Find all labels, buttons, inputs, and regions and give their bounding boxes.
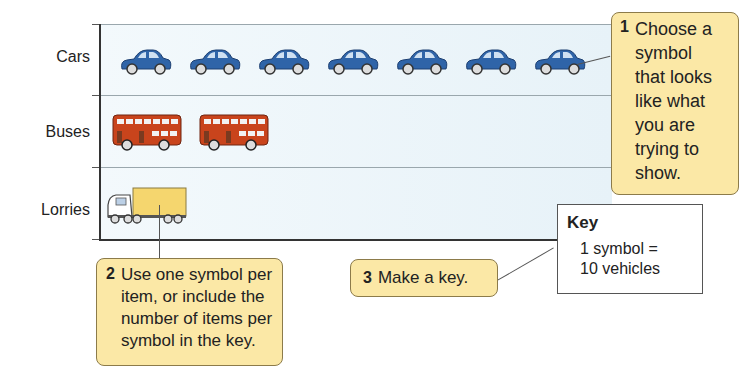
- gridline: [100, 24, 612, 25]
- gridline: [100, 95, 612, 96]
- callout-2-text: number of items per: [121, 308, 272, 330]
- car-icon: [188, 47, 241, 75]
- callout-1: 1 Choose a symbol that looks like what y…: [611, 12, 739, 195]
- callout-1-text: Choose a: [635, 17, 712, 41]
- bus-icon: [199, 114, 269, 152]
- callout-1-text: you are: [635, 113, 712, 137]
- row-label-buses: Buses: [46, 123, 90, 141]
- key-title: Key: [567, 213, 702, 233]
- key-box: Key 1 symbol = 10 vehicles: [557, 204, 703, 294]
- callout-1-text: like what: [635, 89, 712, 113]
- cars-symbols: [119, 47, 586, 75]
- pictogram-figure: Cars Buses Lorries 1 Choose a symbol tha…: [0, 0, 756, 390]
- callout-1-text: show.: [635, 161, 712, 185]
- callout-2-text: symbol in the key.: [121, 330, 272, 352]
- y-axis: [99, 24, 101, 241]
- row-label-cars: Cars: [56, 48, 90, 66]
- callout-1-number: 1: [620, 17, 629, 185]
- callout-2: 2 Use one symbol per item, or include th…: [96, 258, 283, 366]
- callout-2-pointer: [159, 205, 160, 259]
- callout-1-text: that looks: [635, 65, 712, 89]
- car-icon: [464, 47, 517, 75]
- callout-3-pointer: [497, 248, 554, 281]
- callout-2-text: item, or include the: [121, 286, 272, 308]
- buses-symbols: [112, 114, 269, 152]
- key-line-1: 1 symbol =: [580, 239, 702, 259]
- car-icon: [395, 47, 448, 75]
- callout-1-text: trying to: [635, 137, 712, 161]
- car-icon: [119, 47, 172, 75]
- bus-icon: [112, 114, 182, 152]
- lorries-symbols: [106, 187, 188, 225]
- callout-3: 3Make a key.: [350, 259, 498, 297]
- callout-2-text: Use one symbol per: [121, 264, 272, 286]
- car-icon: [326, 47, 379, 75]
- gridline: [100, 167, 612, 168]
- lorry-icon: [106, 187, 188, 225]
- callout-3-text: Make a key.: [378, 268, 468, 287]
- callout-3-number: 3: [363, 269, 372, 286]
- car-icon: [533, 47, 586, 75]
- row-label-lorries: Lorries: [41, 201, 90, 219]
- key-line-2: 10 vehicles: [580, 259, 702, 279]
- callout-2-number: 2: [106, 264, 115, 352]
- car-icon: [257, 47, 310, 75]
- x-axis: [99, 239, 569, 241]
- callout-1-text: symbol: [635, 41, 712, 65]
